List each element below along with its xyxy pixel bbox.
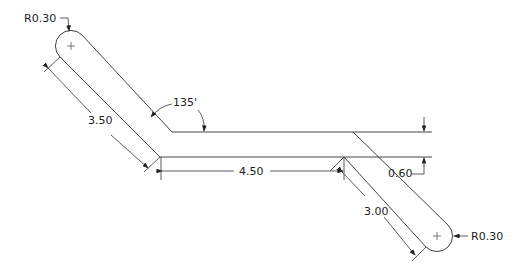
leader-radius-top-left <box>60 18 69 31</box>
drawing-canvas: 3.50 4.50 3.00 0.60 135' R0.30 R0.30 <box>0 0 523 273</box>
radius-top-left-label: R0.30 <box>24 12 56 25</box>
center-mark-top-left <box>67 42 75 50</box>
center-mark-bottom-right <box>433 232 441 240</box>
dim-3-50-label: 3.50 <box>88 114 113 127</box>
dim-0-60 <box>412 117 424 174</box>
dim-angle-label: 135' <box>173 96 197 109</box>
dim-0-60-label: 0.60 <box>388 167 413 180</box>
radius-bottom-right-label: R0.30 <box>471 230 503 243</box>
dim-4-50-label: 4.50 <box>239 165 264 178</box>
part-outline <box>55 30 452 251</box>
dim-3-00-label: 3.00 <box>364 205 389 218</box>
drawing-svg: 3.50 4.50 3.00 0.60 135' R0.30 R0.30 <box>0 0 523 273</box>
